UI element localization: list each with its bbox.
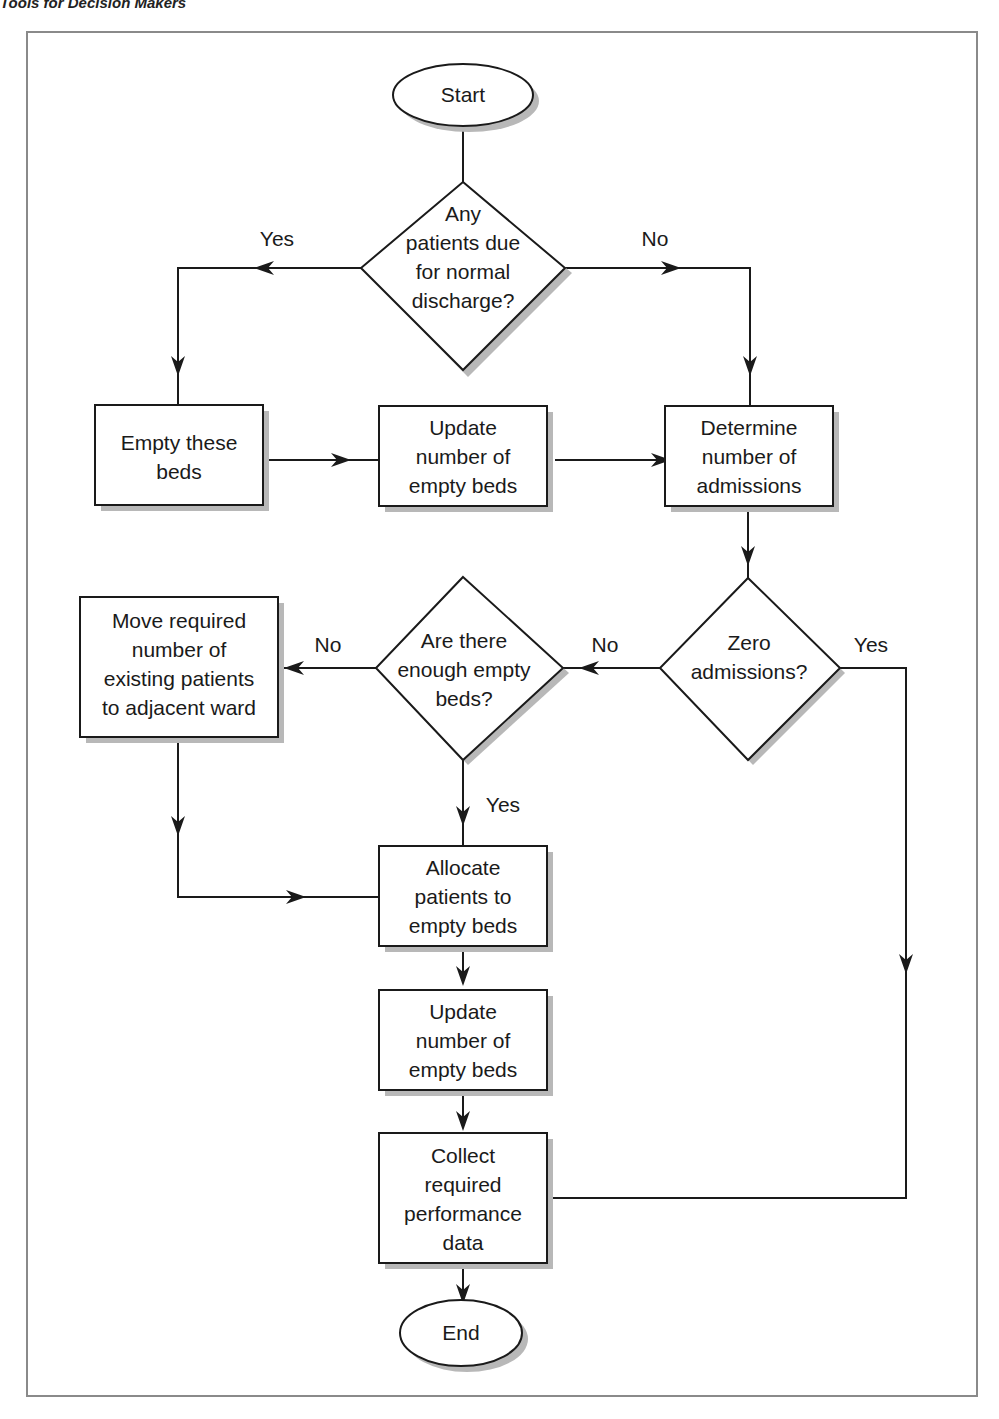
svg-text:patients due: patients due xyxy=(406,231,520,254)
svg-text:Update: Update xyxy=(429,416,497,439)
node-start: Start xyxy=(393,64,539,132)
label-zero-no: No xyxy=(592,633,619,656)
label-enough-yes: Yes xyxy=(486,793,520,816)
flowchart: Start Any patients due for normal discha… xyxy=(0,0,999,1419)
svg-text:data: data xyxy=(443,1231,484,1254)
svg-text:existing patients: existing patients xyxy=(104,667,255,690)
node-decision-zero-admissions: Zero admissions? xyxy=(660,578,845,765)
svg-text:performance: performance xyxy=(404,1202,522,1225)
svg-text:empty beds: empty beds xyxy=(409,914,518,937)
svg-text:Determine: Determine xyxy=(701,416,798,439)
svg-text:patients to: patients to xyxy=(415,885,512,908)
node-update-empty-beds-1: Update number of empty beds xyxy=(379,406,553,512)
svg-text:empty beds: empty beds xyxy=(409,1058,518,1081)
svg-text:number of: number of xyxy=(416,1029,511,1052)
node-collect-data: Collect required performance data xyxy=(379,1133,553,1269)
svg-text:enough empty: enough empty xyxy=(397,658,531,681)
svg-text:beds: beds xyxy=(156,460,202,483)
svg-text:number of: number of xyxy=(702,445,797,468)
svg-text:Allocate: Allocate xyxy=(426,856,501,879)
node-decision-discharge: Any patients due for normal discharge? xyxy=(361,182,572,377)
node-determine-admissions: Determine number of admissions xyxy=(665,406,839,512)
end-label: End xyxy=(442,1321,479,1344)
node-update-empty-beds-2: Update number of empty beds xyxy=(379,990,553,1096)
label-discharge-yes: Yes xyxy=(260,227,294,250)
label-discharge-no: No xyxy=(642,227,669,250)
svg-text:number of: number of xyxy=(132,638,227,661)
edge-zero-yes xyxy=(548,668,906,1198)
edge-discharge-yes-v xyxy=(178,268,260,370)
svg-text:empty beds: empty beds xyxy=(409,474,518,497)
svg-text:required: required xyxy=(424,1173,501,1196)
node-move-patients: Move required number of existing patient… xyxy=(80,597,284,743)
label-zero-yes: Yes xyxy=(854,633,888,656)
start-label: Start xyxy=(441,83,486,106)
svg-text:Collect: Collect xyxy=(431,1144,495,1167)
node-allocate-patients: Allocate patients to empty beds xyxy=(379,846,553,952)
svg-text:Empty these: Empty these xyxy=(121,431,238,454)
node-decision-enough-beds: Are there enough empty beds? xyxy=(376,577,569,765)
label-enough-no: No xyxy=(315,633,342,656)
svg-text:discharge?: discharge? xyxy=(412,289,515,312)
svg-text:Move required: Move required xyxy=(112,609,246,632)
svg-text:Update: Update xyxy=(429,1000,497,1023)
svg-text:number of: number of xyxy=(416,445,511,468)
edge-move-to-allocate xyxy=(178,738,379,897)
svg-text:admissions?: admissions? xyxy=(691,660,808,683)
svg-text:Zero: Zero xyxy=(727,631,770,654)
node-end: End xyxy=(400,1300,528,1372)
svg-text:to adjacent ward: to adjacent ward xyxy=(102,696,256,719)
svg-text:admissions: admissions xyxy=(696,474,801,497)
svg-text:beds?: beds? xyxy=(435,687,492,710)
svg-text:Any: Any xyxy=(445,202,482,225)
svg-text:for normal: for normal xyxy=(416,260,511,283)
svg-text:Are there: Are there xyxy=(421,629,507,652)
node-empty-these-beds: Empty these beds xyxy=(95,405,269,511)
